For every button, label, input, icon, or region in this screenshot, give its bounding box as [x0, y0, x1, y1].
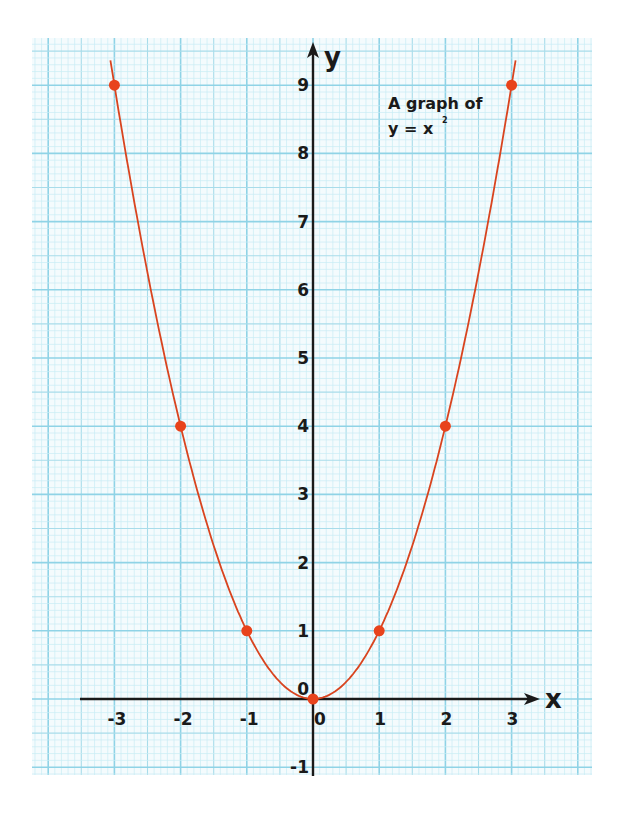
- parabola-chart: -3-2-10123-10123456789 y x A graph of y …: [0, 0, 617, 826]
- y-tick-label: 9: [297, 75, 309, 95]
- x-tick-label: 0: [314, 709, 326, 729]
- y-tick-label: 4: [297, 416, 309, 436]
- x-tick-label: 1: [374, 709, 386, 729]
- x-tick-label: 2: [440, 709, 452, 729]
- x-tick-label: 3: [507, 709, 519, 729]
- x-axis-label: x: [545, 684, 562, 714]
- y-tick-label: 6: [297, 280, 309, 300]
- y-tick-label: 8: [297, 143, 309, 163]
- y-tick-label: 2: [297, 553, 309, 573]
- y-tick-label: 7: [297, 212, 309, 232]
- data-point: [506, 80, 517, 91]
- data-point: [175, 421, 186, 432]
- data-point: [241, 625, 252, 636]
- y-tick-label: 1: [297, 621, 309, 641]
- x-tick-label: -2: [174, 709, 193, 729]
- y-tick-label: 3: [297, 484, 309, 504]
- chart-title-line2: y = x: [388, 119, 434, 138]
- y-tick-label: -1: [290, 757, 309, 777]
- y-axis-label: y: [324, 42, 341, 72]
- chart-title-line1: A graph of: [388, 94, 484, 113]
- chart-title-superscript: 2: [442, 116, 448, 125]
- data-point: [440, 421, 451, 432]
- x-tick-label: -1: [240, 709, 259, 729]
- x-tick-label: -3: [107, 709, 126, 729]
- y-tick-label: 5: [297, 348, 309, 368]
- data-point: [308, 694, 319, 705]
- data-point: [109, 80, 120, 91]
- data-point: [374, 625, 385, 636]
